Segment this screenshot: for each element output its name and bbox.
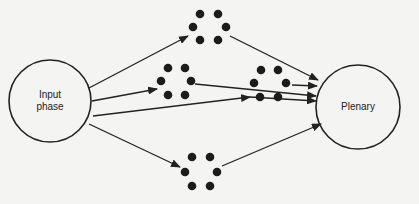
participant-dot <box>214 10 223 19</box>
top-group <box>189 10 231 45</box>
middle-right-group <box>250 66 291 102</box>
input-label-line1: Input <box>20 89 80 101</box>
participant-dot <box>181 168 190 177</box>
plenary-label: Plenary <box>318 101 398 113</box>
input-label-line2: phase <box>20 101 80 113</box>
participant-dot <box>257 66 266 75</box>
participant-dot <box>256 93 265 102</box>
participant-dot <box>188 182 197 191</box>
participant-dot <box>181 64 190 73</box>
participant-dot <box>274 93 283 102</box>
participant-dot <box>196 36 205 45</box>
participant-dot <box>206 153 215 162</box>
arrow-input-to-top-group <box>89 36 188 88</box>
participant-dot <box>222 23 231 32</box>
participant-dot <box>164 91 173 100</box>
participant-dot <box>189 23 198 32</box>
participant-dot <box>196 10 205 19</box>
arrow-bottom-group-to-plenary <box>222 124 321 166</box>
arrows <box>89 36 321 167</box>
participant-dot <box>214 36 223 45</box>
flow-diagram: Input phase Plenary <box>0 0 419 204</box>
arrow-input-to-bottom-group <box>89 124 180 167</box>
participant-dot <box>187 77 196 86</box>
participant-dot <box>181 91 190 100</box>
input-phase-label: Input phase <box>20 89 80 113</box>
participant-dot <box>250 79 259 88</box>
participant-dot <box>157 77 166 86</box>
bottom-group <box>181 153 222 191</box>
participant-dot <box>206 182 215 191</box>
participant-dot <box>282 79 291 88</box>
arrow-input-to-plenary <box>93 97 250 116</box>
participant-dot <box>213 168 222 177</box>
middle-left-group <box>157 64 196 100</box>
arrow-middle-right-group-to-plenary <box>292 85 317 86</box>
participant-dot <box>274 66 283 75</box>
participant-dot <box>188 153 197 162</box>
arrow-input-to-middle-left-group <box>92 89 157 101</box>
arrow-top-group-to-plenary <box>230 36 318 80</box>
participant-dot <box>164 64 173 73</box>
